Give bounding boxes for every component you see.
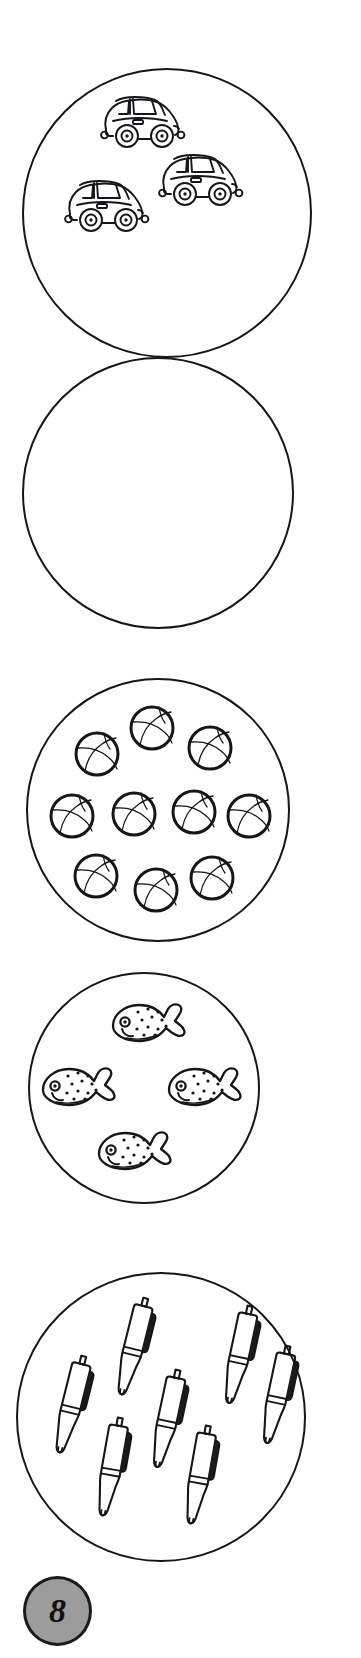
car-icon	[154, 150, 246, 208]
worksheet-page: 8	[0, 0, 361, 1658]
fish-icon	[38, 1062, 122, 1117]
basketball-icon	[132, 866, 180, 914]
group-balls-circle[interactable]	[26, 678, 290, 942]
pen-icon	[87, 1411, 145, 1524]
group-empty-circle[interactable]	[22, 357, 294, 629]
basketball-icon	[110, 790, 158, 838]
fish-icon	[94, 1126, 178, 1181]
car-icon	[60, 176, 152, 234]
group-pens-items	[18, 1274, 304, 1560]
basketball-icon	[128, 704, 176, 752]
car-icon	[96, 92, 188, 150]
basketball-icon	[186, 724, 234, 772]
group-fish-items	[30, 974, 258, 1202]
group-cars-items	[24, 70, 310, 356]
group-empty-items	[24, 359, 292, 627]
basketball-icon	[225, 792, 273, 840]
basketball-icon	[73, 730, 121, 778]
fish-icon	[164, 1062, 248, 1117]
group-pens-circle[interactable]	[16, 1272, 306, 1562]
group-balls-items	[28, 680, 288, 940]
basketball-icon	[170, 788, 218, 836]
basketball-icon	[48, 792, 96, 840]
basketball-icon	[72, 852, 120, 900]
basketball-icon	[188, 854, 236, 902]
page-number-badge: 8	[23, 1576, 92, 1646]
group-fish-circle[interactable]	[28, 972, 260, 1204]
page-number-text: 8	[49, 1594, 66, 1628]
group-cars-circle[interactable]	[22, 68, 312, 358]
fish-icon	[108, 998, 192, 1053]
